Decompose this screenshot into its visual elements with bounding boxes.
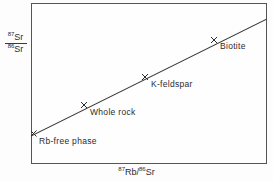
- isochron-figure: 87Sr 86Sr 87Rb/86Sr Rb-free phase Whole …: [0, 0, 273, 181]
- point-label-rb-free-phase: Rb-free phase: [39, 136, 97, 146]
- y-axis-denominator: 86Sr: [2, 44, 29, 54]
- x-axis-base-1: Rb/: [125, 167, 139, 177]
- y-axis-label: 87Sr 86Sr: [2, 33, 29, 55]
- data-point-whole-rock: [81, 102, 87, 108]
- x-axis-superscript-1: 87: [118, 166, 125, 172]
- x-axis-base-2: Sr: [146, 167, 155, 177]
- y-axis-denominator-base: Sr: [14, 44, 23, 54]
- point-label-k-feldspar: K-feldspar: [151, 79, 193, 89]
- isochron-line: [31, 19, 267, 136]
- x-axis-label: 87Rb/86Sr: [0, 167, 273, 177]
- point-label-whole-rock: Whole rock: [90, 107, 136, 117]
- y-axis-numerator: 87Sr: [2, 33, 29, 42]
- point-label-biotite: Biotite: [220, 41, 246, 51]
- data-point-biotite: [211, 37, 217, 43]
- y-axis-numerator-base: Sr: [14, 32, 23, 42]
- x-axis-superscript-2: 86: [139, 166, 146, 172]
